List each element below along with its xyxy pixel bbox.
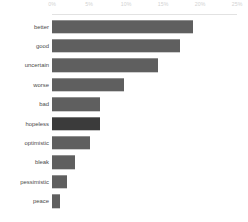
category-label: peace (33, 197, 49, 205)
bar-good (52, 39, 180, 52)
bar-optimistic (52, 136, 90, 149)
bar-better (52, 20, 193, 33)
bar-row: worse (0, 75, 248, 94)
bar-row: bleak (0, 153, 248, 172)
bar-row: bad (0, 95, 248, 114)
category-label: bleak (35, 158, 49, 166)
bar-worse (52, 78, 124, 91)
x-tick-label-1: 5% (85, 1, 93, 8)
x-tick-label-0: 0% (48, 1, 56, 8)
bar-row: better (0, 17, 248, 36)
category-label: pessimistic (20, 178, 49, 186)
category-label: bad (39, 100, 49, 108)
x-tick-label-4: 20% (195, 1, 206, 8)
bar-uncertain (52, 59, 158, 72)
x-tick-label-2: 10% (121, 1, 132, 8)
bar-row: pessimistic (0, 172, 248, 191)
bar-hopeless (52, 117, 100, 130)
bar-row: peace (0, 192, 248, 211)
bar-row: hopeless (0, 114, 248, 133)
bar-row: optimistic (0, 133, 248, 152)
x-tick-label-3: 15% (158, 1, 169, 8)
category-label: worse (33, 81, 49, 89)
x-axis: 0% 5% 10% 15% 20% 25% (0, 0, 248, 16)
bar-pessimistic (52, 175, 67, 188)
x-tick-label-5: 25% (232, 1, 243, 8)
category-label: good (36, 42, 49, 50)
bar-row: uncertain (0, 56, 248, 75)
category-label: hopeless (25, 120, 49, 128)
bar-bad (52, 98, 100, 111)
bar-peace (52, 195, 60, 208)
category-label: better (34, 23, 49, 31)
plot-area: better good uncertain worse bad hopeless… (0, 15, 248, 220)
category-label: optimistic (24, 139, 49, 147)
horizontal-bar-chart: 0% 5% 10% 15% 20% 25% better good uncert… (0, 0, 248, 222)
bar-bleak (52, 156, 75, 169)
bar-row: good (0, 36, 248, 55)
category-label: uncertain (25, 61, 49, 69)
